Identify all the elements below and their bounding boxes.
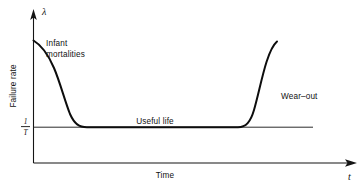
bathtub-curve-figure: λ t Failure rate Time 1 T Infant mortali… [0,0,363,189]
y-axis-symbol-lambda: λ [41,6,47,17]
annotation-infant-mortalities-line1: Infant [46,39,68,48]
x-axis-label: Time [156,171,175,180]
annotation-wear-out: Wear–out [281,92,318,101]
y-tick-numerator: 1 [24,117,28,126]
x-axis-symbol-t: t [348,171,351,182]
y-tick-label-one-over-T: 1 T [21,117,30,137]
y-tick-denominator: T [23,128,28,137]
annotation-infant-mortalities: Infant mortalities [46,39,85,59]
y-axis-label: Failure rate [9,64,18,108]
annotation-useful-life: Useful life [136,117,174,126]
annotation-infant-mortalities-line2: mortalities [46,50,85,59]
chart-canvas: λ t Failure rate Time 1 T Infant mortali… [0,0,363,189]
